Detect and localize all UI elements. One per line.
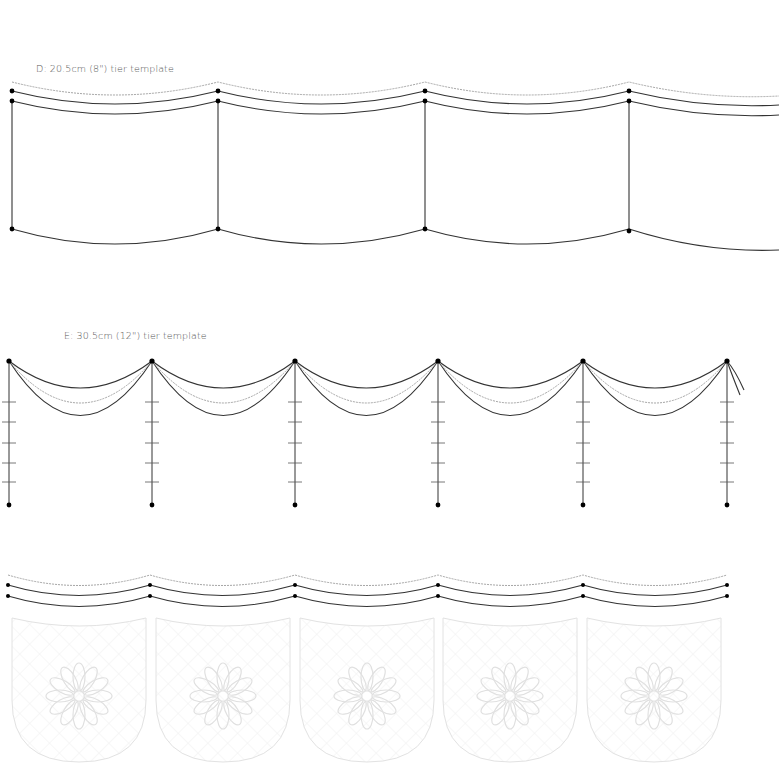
tier-templates-diagram — [0, 0, 779, 768]
template-d — [10, 82, 779, 250]
template-f — [6, 575, 729, 762]
template-e — [2, 358, 744, 507]
